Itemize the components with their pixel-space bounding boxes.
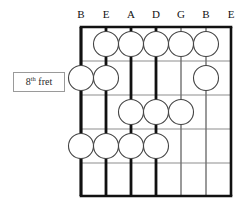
chord-diagram: B E A D G B E 8th fret [0,0,244,213]
finger-dot-fret3-string3 [119,100,144,125]
finger-dot-fret2-string1 [69,66,94,91]
finger-dot-fret4-string2 [94,134,119,159]
finger-dot-fret3-string5 [169,100,194,125]
finger-dot-fret4-string1 [69,134,94,159]
finger-dot-fret1-string4 [144,32,169,57]
finger-dot-fret4-string4 [144,134,169,159]
finger-dot-fret2-string6 [194,66,219,91]
fretboard-grid [0,0,244,213]
finger-dot-fret1-string5 [169,32,194,57]
finger-dot-fret4-string3 [119,134,144,159]
finger-dot-fret1-string2 [94,32,119,57]
finger-dot-fret1-string6 [194,32,219,57]
finger-dot-fret1-string3 [119,32,144,57]
finger-dot-fret3-string4 [144,100,169,125]
finger-dot-fret2-string2 [94,66,119,91]
